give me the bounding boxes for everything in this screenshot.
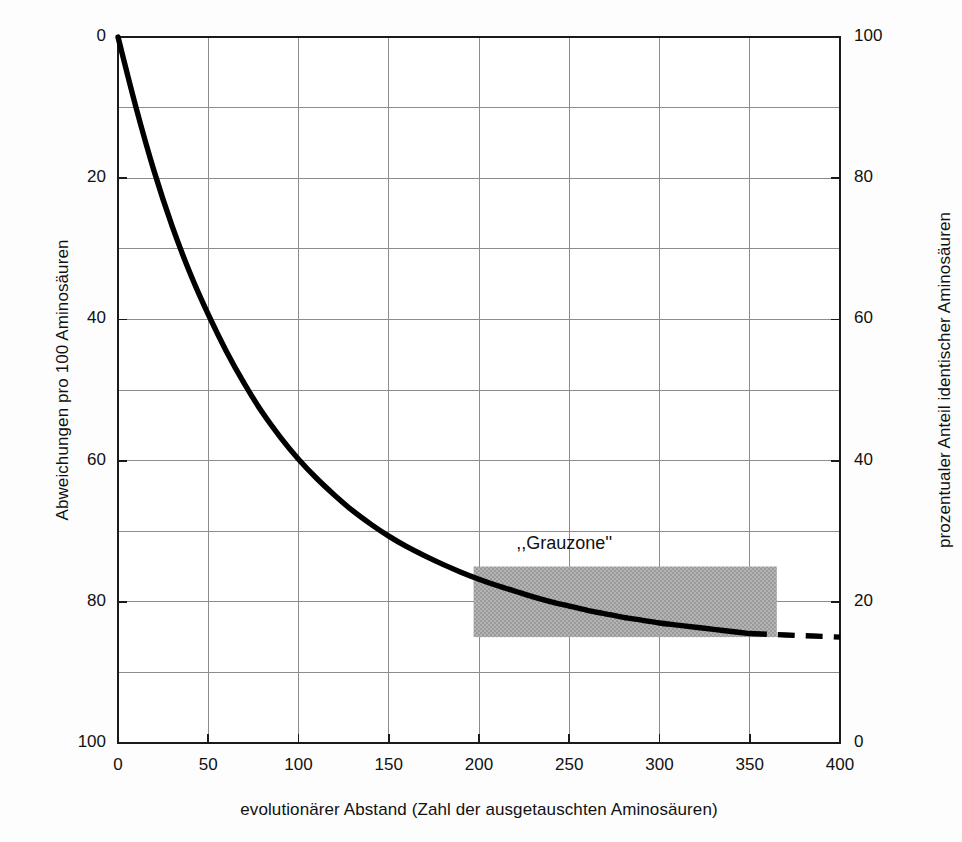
y-tick-label-left: 0	[46, 26, 106, 46]
y-tick-label-right: 20	[854, 591, 914, 611]
x-tick-label: 150	[359, 755, 419, 775]
y-tick-label-right: 100	[854, 26, 914, 46]
grauzone-shaded-region	[474, 567, 777, 638]
y-tick-label-left: 20	[46, 167, 106, 187]
x-tick-label: 350	[720, 755, 780, 775]
x-axis-title: evolutionärer Abstand (Zahl der ausgetau…	[118, 800, 840, 820]
y-tick-label-left: 100	[46, 732, 106, 752]
x-tick-label: 400	[810, 755, 870, 775]
y-tick-label-right: 60	[854, 308, 914, 328]
y-axis-title-left: Abweichungen pro 100 Aminosäuren	[48, 10, 78, 750]
y-tick-label-right: 40	[854, 450, 914, 470]
y-tick-label-right: 80	[854, 167, 914, 187]
x-tick-label: 250	[539, 755, 599, 775]
y-tick-label-left: 80	[46, 591, 106, 611]
x-tick-label: 300	[630, 755, 690, 775]
x-tick-label: 50	[178, 755, 238, 775]
x-tick-label: 200	[449, 755, 509, 775]
grauzone-annotation: ,,Grauzone''	[516, 533, 612, 554]
chart-plot-svg	[0, 0, 962, 842]
y-tick-label-right: 0	[854, 732, 914, 752]
y-tick-label-left: 60	[46, 450, 106, 470]
x-tick-label: 0	[88, 755, 148, 775]
x-tick-label: 100	[269, 755, 329, 775]
y-axis-title-right: prozentualer Anteil identischer Aminosäu…	[930, 10, 960, 750]
chart-figure: Abweichungen pro 100 Aminosäuren prozent…	[0, 0, 962, 842]
y-tick-label-left: 40	[46, 308, 106, 328]
